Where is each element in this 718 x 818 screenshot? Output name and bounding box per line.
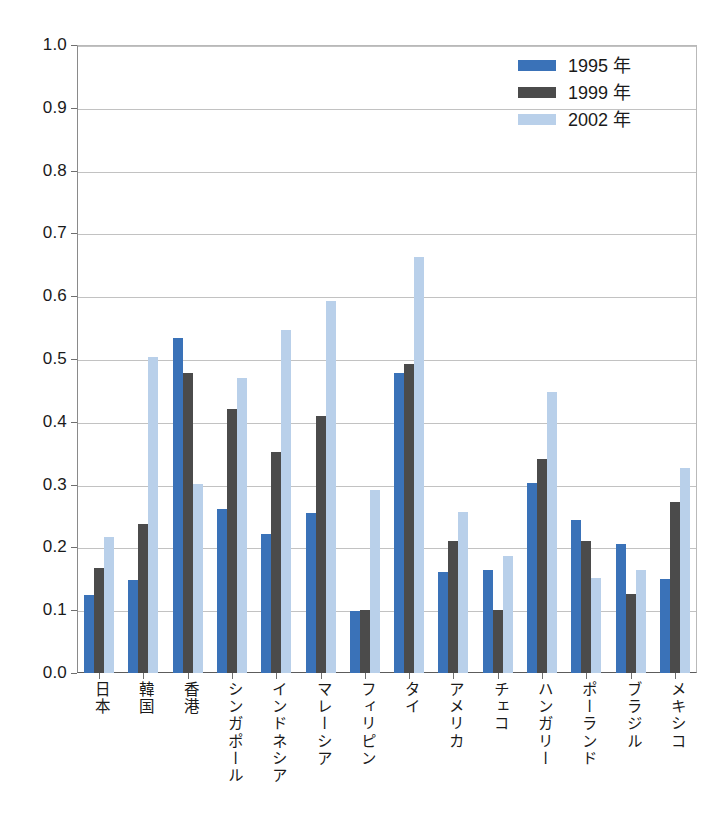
x-axis-tick-mark: [99, 673, 100, 679]
x-axis-tick-mark: [321, 673, 322, 679]
bar[interactable]: [527, 483, 537, 673]
legend-item[interactable]: 1999 年: [518, 79, 688, 106]
bar[interactable]: [680, 468, 690, 673]
x-axis-label: マレーシア: [310, 681, 332, 767]
bar-group: [476, 45, 520, 673]
x-axis-label: 香港: [177, 681, 199, 715]
bar[interactable]: [660, 579, 670, 673]
bar-group: [387, 45, 431, 673]
x-axis-label: インドネシア: [265, 681, 287, 784]
x-axis-label: チェコ: [487, 681, 509, 733]
bar[interactable]: [571, 520, 581, 673]
bar-group: [564, 45, 608, 673]
x-axis-label: ブラジル: [620, 681, 642, 750]
bar-group: [653, 45, 697, 673]
y-axis-tick-label: 0.5: [21, 350, 67, 367]
bar[interactable]: [217, 509, 227, 673]
bar[interactable]: [438, 572, 448, 673]
bar-group: [298, 45, 342, 673]
y-axis-tick-label: 0.1: [21, 601, 67, 618]
x-axis-label: 日本: [88, 681, 110, 715]
legend-label-1995: 1995 年: [568, 57, 631, 75]
bar[interactable]: [193, 484, 203, 673]
bar[interactable]: [626, 594, 636, 673]
y-axis-tick-label: 0.4: [21, 413, 67, 430]
bar[interactable]: [360, 610, 370, 673]
bar[interactable]: [370, 490, 380, 673]
y-axis-tick-label: 0.3: [21, 476, 67, 493]
x-axis-label: シンガポール: [221, 681, 243, 784]
bar[interactable]: [581, 541, 591, 673]
bar-group: [121, 45, 165, 673]
bar[interactable]: [261, 534, 271, 673]
x-axis-label: ポーランド: [575, 681, 597, 767]
bar[interactable]: [591, 578, 601, 673]
x-axis-tick-mark: [498, 673, 499, 679]
x-axis-tick-mark: [631, 673, 632, 679]
x-axis-tick-mark: [143, 673, 144, 679]
bar[interactable]: [316, 416, 326, 673]
bar[interactable]: [94, 568, 104, 674]
bar-chart: 0.00.10.20.30.40.50.60.70.80.91.0 日本韓国香港…: [0, 0, 718, 818]
x-axis-tick-mark: [542, 673, 543, 679]
x-axis-tick-mark: [453, 673, 454, 679]
y-axis-tick-label: 0.0: [21, 664, 67, 681]
x-axis-label: タイ: [398, 681, 420, 715]
bar[interactable]: [636, 570, 646, 673]
bar[interactable]: [670, 502, 680, 673]
legend-swatch-2002: [518, 114, 556, 125]
bar[interactable]: [414, 257, 424, 673]
bar[interactable]: [326, 301, 336, 673]
legend-item[interactable]: 1995 年: [518, 52, 688, 79]
bar-group: [166, 45, 210, 673]
bar[interactable]: [404, 364, 414, 673]
x-axis-tick-mark: [675, 673, 676, 679]
y-axis-tick-label: 0.6: [21, 287, 67, 304]
legend-swatch-1995: [518, 60, 556, 71]
bar[interactable]: [493, 610, 503, 673]
bar[interactable]: [183, 373, 193, 673]
bar[interactable]: [104, 537, 114, 673]
x-axis-label: 韓国: [132, 681, 154, 715]
x-axis-label: メキシコ: [664, 681, 686, 750]
y-axis-tick-label: 0.7: [21, 224, 67, 241]
bar[interactable]: [394, 373, 404, 673]
bar[interactable]: [350, 611, 360, 673]
legend: 1995 年 1999 年 2002 年: [518, 48, 688, 135]
legend-item[interactable]: 2002 年: [518, 106, 688, 133]
bar[interactable]: [483, 570, 493, 673]
bar[interactable]: [173, 338, 183, 673]
bar-group: [520, 45, 564, 673]
bar-group: [431, 45, 475, 673]
bar-group: [77, 45, 121, 673]
x-axis-tick-mark: [232, 673, 233, 679]
bar[interactable]: [138, 524, 148, 673]
x-axis-tick-mark: [365, 673, 366, 679]
bar[interactable]: [448, 541, 458, 673]
bar[interactable]: [128, 580, 138, 673]
bars-layer: [77, 45, 697, 673]
bar[interactable]: [616, 544, 626, 673]
bar[interactable]: [84, 595, 94, 674]
x-axis-tick-mark: [586, 673, 587, 679]
x-axis-tick-mark: [188, 673, 189, 679]
bar[interactable]: [281, 330, 291, 673]
bar[interactable]: [237, 378, 247, 673]
bar[interactable]: [306, 513, 316, 673]
legend-label-1999: 1999 年: [568, 84, 631, 102]
bar[interactable]: [458, 512, 468, 673]
bar[interactable]: [537, 459, 547, 673]
bar[interactable]: [227, 409, 237, 673]
bar[interactable]: [503, 556, 513, 673]
y-axis-tick-label: 0.2: [21, 538, 67, 555]
bar[interactable]: [148, 357, 158, 674]
bar[interactable]: [271, 452, 281, 673]
bar[interactable]: [547, 392, 557, 673]
y-axis-tick-mark: [71, 673, 77, 674]
bar-group: [343, 45, 387, 673]
bar-group: [254, 45, 298, 673]
x-axis-label: フィリピン: [354, 681, 376, 767]
x-axis-labels: 日本韓国香港シンガポールインドネシアマレーシアフィリピンタイアメリカチェコハンガ…: [77, 681, 697, 816]
legend-label-2002: 2002 年: [568, 111, 631, 129]
x-axis-label: ハンガリー: [531, 681, 553, 767]
